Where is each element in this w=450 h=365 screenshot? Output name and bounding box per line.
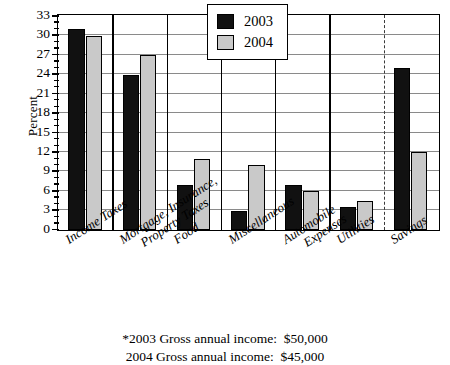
category-separator [329, 15, 330, 230]
gridline [58, 73, 439, 74]
gridline [58, 132, 439, 133]
gridline [58, 93, 439, 94]
bar-2004-mortgage-insurance-property-taxes [140, 55, 156, 230]
y-axis-tick-label: 12 [37, 144, 51, 158]
legend-swatch-2004 [217, 35, 234, 50]
footnote-line-1: *2003 Gross annual income: $50,000 [0, 330, 450, 348]
bar-2003-income-taxes [68, 29, 84, 230]
y-axis-minor-tick [54, 125, 59, 126]
chart-legend: 2003 2004 [207, 4, 288, 60]
y-axis-minor-tick [54, 80, 59, 81]
y-axis-tick-label: 33 [37, 8, 51, 22]
y-axis-tick [52, 34, 59, 36]
y-axis-minor-tick [54, 86, 59, 87]
y-axis-minor-tick [54, 21, 59, 22]
y-axis-tick [52, 190, 59, 192]
legend-item-2004: 2004 [217, 32, 273, 53]
bar-chart-figure: Percent 03691215182124273033 2003 2004 I… [0, 0, 450, 365]
y-axis-minor-tick [54, 222, 59, 223]
y-axis-minor-tick [54, 145, 59, 146]
y-axis-minor-tick [54, 119, 59, 120]
y-axis-minor-tick [54, 60, 59, 61]
y-axis-tick [52, 151, 59, 153]
gridline [58, 151, 439, 152]
bar-2003-savings [394, 68, 410, 230]
category-separator-dashed [384, 15, 385, 230]
y-axis-tick [52, 15, 59, 17]
y-axis-minor-tick [54, 216, 59, 217]
y-axis-tick-label: 9 [43, 164, 50, 178]
y-axis-tick-label: 6 [43, 183, 50, 197]
y-axis-tick-label: 30 [37, 28, 51, 42]
y-axis-tick-label: 24 [37, 67, 51, 81]
y-axis-tick-label: 15 [37, 125, 51, 139]
y-axis-tick [52, 229, 59, 231]
y-axis-minor-tick [54, 106, 59, 107]
y-axis-tick [52, 54, 59, 56]
y-axis-tick-label: 18 [37, 105, 51, 119]
footnote-line-2: 2004 Gross annual income: $45,000 [0, 348, 450, 365]
gridline [58, 112, 439, 113]
y-axis-tick-label: 27 [37, 47, 51, 61]
y-axis-tick-label: 3 [43, 203, 50, 217]
legend-item-2003: 2003 [217, 11, 273, 32]
y-axis-tick-label: 21 [37, 86, 51, 100]
category-separator [112, 15, 113, 230]
y-axis-minor-tick [54, 158, 59, 159]
y-axis-tick [52, 132, 59, 134]
bar-2004-income-taxes [86, 36, 102, 230]
y-axis-tick [52, 73, 59, 75]
y-axis-minor-tick [54, 99, 59, 100]
y-axis-tick [52, 170, 59, 172]
y-axis-tick [52, 209, 59, 211]
legend-label-2003: 2003 [244, 14, 273, 29]
y-axis-minor-tick [54, 203, 59, 204]
y-axis-minor-tick [54, 138, 59, 139]
category-separator [167, 15, 168, 230]
y-axis-tick [52, 93, 59, 95]
y-axis-minor-tick [54, 41, 59, 42]
y-axis-tick [52, 112, 59, 114]
y-axis-minor-tick [54, 164, 59, 165]
y-axis-minor-tick [54, 28, 59, 29]
legend-label-2004: 2004 [244, 35, 273, 50]
legend-swatch-2003 [217, 14, 234, 29]
y-axis-minor-tick [54, 177, 59, 178]
y-axis-minor-tick [54, 196, 59, 197]
chart-footnotes: *2003 Gross annual income: $50,000 2004 … [0, 330, 450, 365]
y-axis-tick-label: 0 [43, 222, 50, 236]
y-axis-minor-tick [54, 67, 59, 68]
y-axis-minor-tick [54, 183, 59, 184]
y-axis-minor-tick [54, 47, 59, 48]
